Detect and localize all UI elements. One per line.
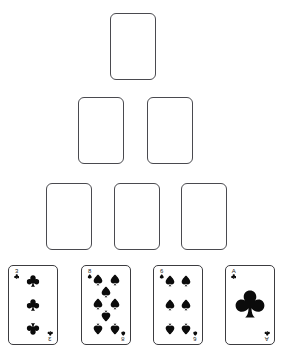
playing-card[interactable]: 33 (8, 265, 58, 345)
empty-card-slot[interactable] (147, 97, 193, 164)
spades-pip-icon (180, 323, 192, 335)
spades-pip-icon (109, 298, 121, 310)
spades-pip-icon (164, 275, 176, 287)
pyramid-card-tableau: 338866AA (0, 0, 283, 352)
empty-card-slot[interactable] (46, 183, 92, 250)
clubs-pip-icon (27, 275, 40, 288)
clubs-pip-icon (27, 322, 40, 335)
spades-pip-icon (92, 274, 104, 286)
card-pip-field (161, 272, 195, 338)
playing-card[interactable]: AA (225, 265, 275, 345)
card-pip-field (16, 272, 50, 338)
spades-pip-icon (100, 286, 112, 298)
spades-pip-icon (164, 323, 176, 335)
spades-pip-icon (109, 274, 121, 286)
clubs-pip-icon (235, 289, 265, 319)
spades-pip-icon (180, 275, 192, 287)
clubs-pip-icon (27, 299, 40, 312)
spades-pip-icon (164, 299, 176, 311)
spades-pip-icon (180, 299, 192, 311)
playing-card[interactable]: 66 (153, 265, 203, 345)
spades-pip-icon (100, 310, 112, 322)
empty-card-slot[interactable] (114, 183, 160, 250)
card-pip-field (233, 272, 267, 338)
card-pip-field (89, 272, 123, 338)
empty-card-slot[interactable] (110, 13, 156, 80)
spades-pip-icon (109, 323, 121, 335)
empty-card-slot[interactable] (181, 183, 227, 250)
spades-pip-icon (92, 298, 104, 310)
empty-card-slot[interactable] (78, 97, 124, 164)
playing-card[interactable]: 88 (81, 265, 131, 345)
spades-pip-icon (92, 323, 104, 335)
